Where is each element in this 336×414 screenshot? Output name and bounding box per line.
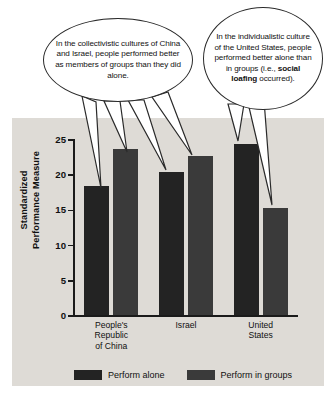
legend-label-groups: Perform in groups — [221, 370, 293, 380]
y-tick-mark-5 — [68, 280, 74, 282]
bar-alone-1 — [159, 172, 184, 316]
bar-groups-2 — [263, 208, 288, 316]
x-axis-category-labels: People'sRepublicof ChinaIsraelUnitedStat… — [74, 320, 298, 366]
x-category-label-0-line-2: of China — [74, 341, 148, 351]
x-category-label-2-line-1: States — [224, 330, 298, 340]
y-tick-label-0: 0 — [26, 310, 66, 321]
x-category-label-2: UnitedStates — [224, 320, 298, 341]
x-axis-line — [73, 315, 298, 317]
legend-item-perform-in-groups: Perform in groups — [187, 370, 293, 380]
y-tick-mark-15 — [68, 210, 74, 212]
x-category-label-1: Israel — [149, 320, 223, 330]
x-category-label-2-line-0: United — [224, 320, 298, 330]
x-category-label-0: People'sRepublicof China — [74, 320, 148, 351]
figure-container: In the collectivistic cultures of China … — [0, 0, 336, 414]
individualistic-callout-text-after: occurred). — [257, 74, 295, 83]
bar-alone-0 — [84, 186, 109, 316]
y-axis-title: Standardized Performance Measure — [17, 120, 45, 280]
collectivistic-callout-text: In the collectivistic cultures of China … — [44, 39, 192, 81]
legend: Perform alone Perform in groups — [74, 368, 314, 382]
collectivistic-callout: In the collectivistic cultures of China … — [43, 18, 193, 102]
individualistic-callout-text: In the individualistic culture of the Un… — [204, 32, 322, 85]
plot-area — [74, 140, 298, 316]
bar-alone-2 — [234, 144, 259, 316]
y-axis-line — [73, 139, 75, 317]
y-tick-mark-20 — [68, 174, 74, 176]
legend-item-perform-alone: Perform alone — [74, 370, 165, 380]
y-tick-mark-0 — [68, 315, 74, 317]
y-axis-title-line-2: Performance Measure — [31, 151, 43, 249]
y-axis-title-line-1: Standardized — [19, 171, 31, 230]
x-category-label-0-line-1: Republic — [74, 330, 148, 340]
y-tick-mark-10 — [68, 245, 74, 247]
legend-swatch-alone-icon — [74, 370, 102, 380]
legend-label-alone: Perform alone — [108, 370, 165, 380]
y-tick-mark-25 — [68, 139, 74, 141]
bar-groups-1 — [188, 156, 213, 316]
legend-swatch-groups-icon — [187, 370, 215, 380]
x-category-label-1-line-0: Israel — [149, 320, 223, 330]
individualistic-callout: In the individualistic culture of the Un… — [203, 7, 323, 110]
x-category-label-0-line-0: People's — [74, 320, 148, 330]
bar-groups-0 — [113, 149, 138, 316]
